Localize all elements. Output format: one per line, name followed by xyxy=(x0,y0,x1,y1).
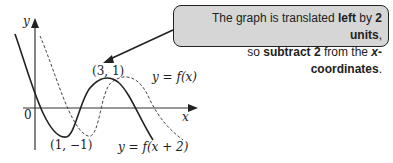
curve-f-x-plus-2-label: y = f(x + 2) xyxy=(118,140,188,154)
x-axis-arrow-icon xyxy=(188,104,198,112)
min-point-label: (1, −1) xyxy=(50,138,92,152)
pointer-line xyxy=(108,30,173,60)
y-axis-arrow-icon xyxy=(31,18,39,28)
origin-label: 0 xyxy=(24,108,32,122)
x-axis-label: x xyxy=(182,110,189,124)
pointer-arrow-icon xyxy=(103,55,114,63)
curve-f-x-label: y = f(x) xyxy=(152,70,197,84)
y-axis-label: y xyxy=(23,14,30,28)
curve-f-x-plus-2 xyxy=(15,34,153,140)
callout-note: The graph is translated left by 2 units,… xyxy=(173,5,389,47)
curve-f-x xyxy=(40,36,183,140)
max-point-label: (3, 1) xyxy=(92,64,124,78)
